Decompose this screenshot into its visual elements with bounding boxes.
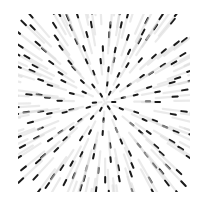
particle-dot [127, 35, 129, 40]
motion-streak [54, 0, 68, 25]
motion-streak [10, 89, 37, 93]
particle-dot [159, 14, 162, 19]
particle-dot [134, 95, 138, 96]
particle-dot [170, 82, 175, 83]
motion-streak [87, 189, 92, 204]
motion-streak [114, 0, 117, 15]
particle-dot [128, 50, 130, 54]
particle-field [0, 0, 207, 204]
motion-streak [0, 53, 27, 66]
particle-dot [144, 7, 146, 13]
particle-dot [118, 73, 120, 77]
particle-dot [18, 178, 23, 182]
particle-dot [119, 176, 120, 181]
particle-dot [109, 92, 111, 95]
particle-dot [15, 66, 20, 68]
motion-streak [179, 77, 207, 84]
particle-dot [189, 134, 194, 136]
motion-streak [190, 113, 207, 117]
motion-streak [82, 0, 88, 25]
particle-dot [127, 12, 128, 18]
particle-dot [70, 93, 74, 94]
particle-dot [202, 45, 207, 48]
particle-dot [83, 46, 85, 50]
particle-dot [182, 90, 187, 91]
particle-dot [82, 0, 83, 2]
particle-dot [91, 8, 92, 14]
motion-streak [0, 67, 22, 76]
motion-streak [132, 183, 142, 204]
particle-dot [51, 8, 54, 13]
motion-streak [100, 0, 101, 24]
particle-dot [180, 53, 185, 56]
particle-dot [143, 119, 147, 121]
particle-dot [130, 171, 132, 176]
particle-dot [80, 137, 82, 141]
particle-dot [161, 200, 164, 204]
particle-dot [15, 30, 20, 34]
particle-dot [114, 116, 116, 119]
motion-streak [191, 90, 207, 93]
particle-dot [175, 11, 179, 16]
motion-streak [181, 113, 207, 117]
particle-dot [202, 154, 207, 157]
particle-dot [115, 201, 116, 204]
particle-dot [12, 114, 18, 115]
motion-streak [180, 149, 207, 166]
particle-dot [76, 12, 78, 18]
motion-streak [192, 103, 207, 104]
particle-dot [181, 181, 186, 186]
particle-dot [176, 191, 180, 196]
particle-dot [91, 22, 92, 27]
particle-dot [55, 35, 58, 39]
particle-dot [155, 91, 160, 92]
particle-dot [203, 93, 207, 94]
motion-streak [1, 103, 30, 104]
particle-dot [117, 85, 119, 88]
particle-dot [36, 42, 40, 46]
motion-streak [0, 118, 20, 124]
particle-dot [147, 87, 151, 88]
particle-dot [193, 122, 199, 123]
particle-dot [57, 11, 60, 16]
particle-dot [81, 80, 84, 83]
motion-streak [14, 53, 39, 67]
particle-dot [14, 53, 19, 56]
particle-dot [6, 158, 12, 161]
particle-dot [92, 84, 94, 87]
motion-streak [108, 170, 109, 197]
particle-dot [202, 163, 207, 167]
particle-dot [96, 187, 97, 193]
particle-dot [20, 145, 25, 148]
particle-dot [158, 0, 161, 2]
particle-dot [54, 148, 58, 152]
particle-dot [100, 108, 102, 111]
radial-burst-image [0, 0, 207, 204]
particle-dot [126, 63, 128, 67]
particle-dot [10, 89, 16, 90]
particle-dot [194, 52, 200, 55]
motion-streak [13, 106, 39, 108]
particle-dot [121, 0, 122, 5]
motion-streak [160, 171, 180, 196]
particle-dot [147, 131, 151, 134]
particle-dot [61, 80, 65, 82]
particle-dot [0, 150, 5, 153]
motion-streak [173, 118, 200, 124]
particle-dot [115, 48, 116, 53]
motion-streak [92, 0, 96, 15]
particle-dot [86, 32, 87, 37]
particle-dot [169, 8, 173, 13]
motion-streak [0, 75, 20, 82]
particle-dot [63, 112, 67, 113]
particle-dot [18, 44, 23, 47]
motion-streak [0, 94, 29, 96]
particle-dot [0, 53, 4, 56]
particle-dot [54, 0, 57, 3]
particle-dot [92, 202, 93, 204]
particle-dot [15, 136, 20, 138]
particle-dot [87, 107, 90, 108]
particle-dot [195, 30, 200, 34]
particle-dot [100, 94, 102, 97]
particle-dot [44, 201, 47, 204]
